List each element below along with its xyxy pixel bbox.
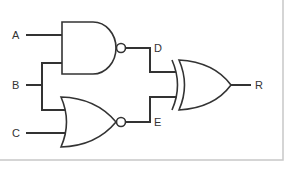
nand-gate [62,22,126,74]
nand-gate-body [62,22,116,74]
intermediate-label-e: E [154,116,161,128]
xor-gate-body [179,60,231,110]
nor-gate-bubble [117,118,126,127]
nor-gate-body [61,97,116,147]
nand-gate-bubble [117,44,126,53]
input-label-b: B [12,79,19,91]
wire-e [126,97,176,122]
nor-gate [61,97,126,147]
xor-gate-back-curve [172,60,178,110]
output-label-r: R [255,79,263,91]
input-label-c: C [12,127,20,139]
xor-gate [172,60,231,110]
input-label-a: A [12,29,20,41]
intermediate-label-d: D [154,42,162,54]
wire-d [126,48,176,72]
logic-circuit-diagram: A B C D E R [0,0,295,175]
